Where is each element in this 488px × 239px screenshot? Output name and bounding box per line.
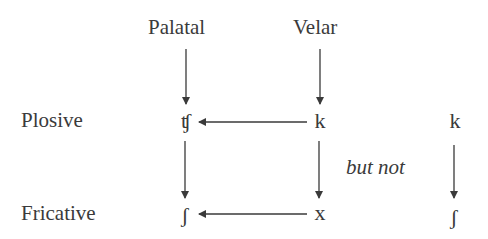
arrows-layer xyxy=(0,0,488,239)
